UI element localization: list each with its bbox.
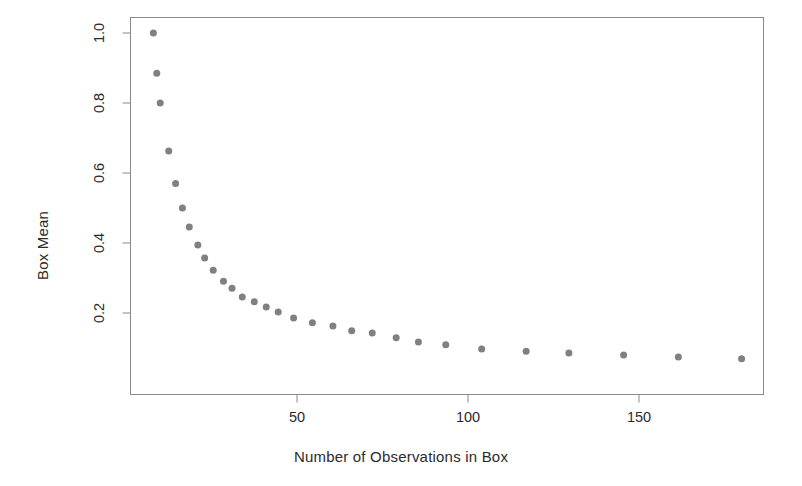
scatter-point bbox=[201, 255, 208, 262]
scatter-point bbox=[675, 354, 682, 361]
scatter-point bbox=[194, 242, 201, 249]
scatter-point bbox=[150, 30, 157, 37]
scatter-point bbox=[393, 334, 400, 341]
scatter-point bbox=[186, 223, 193, 230]
scatter-point bbox=[415, 339, 422, 346]
scatter-point bbox=[179, 205, 186, 212]
scatter-point bbox=[523, 348, 530, 355]
plot-frame bbox=[131, 18, 764, 395]
y-tick-label: 0.2 bbox=[89, 293, 109, 333]
scatter-point bbox=[309, 319, 316, 326]
scatter-point bbox=[329, 322, 336, 329]
y-tick-label: 0.8 bbox=[89, 83, 109, 123]
x-axis-ticks bbox=[297, 395, 639, 403]
scatter-point bbox=[239, 293, 246, 300]
scatter-point bbox=[263, 304, 270, 311]
scatter-point bbox=[165, 147, 172, 154]
scatter-point bbox=[229, 285, 236, 292]
x-axis-title: Number of Observations in Box bbox=[0, 448, 802, 465]
y-tick-label: 0.4 bbox=[89, 223, 109, 263]
scatter-point bbox=[220, 278, 227, 285]
y-tick-label: 0.6 bbox=[89, 153, 109, 193]
scatter-point bbox=[290, 314, 297, 321]
scatter-point bbox=[251, 298, 258, 305]
scatter-point bbox=[157, 100, 164, 107]
y-tick-label: 1.0 bbox=[89, 13, 109, 53]
scatter-point bbox=[172, 180, 179, 187]
x-tick-label: 100 bbox=[448, 409, 488, 425]
scatter-point bbox=[738, 355, 745, 362]
y-axis-title: Box Mean bbox=[34, 211, 51, 280]
data-points bbox=[150, 30, 745, 363]
scatter-point bbox=[153, 70, 160, 77]
scatter-point bbox=[620, 352, 627, 359]
y-axis-ticks bbox=[123, 33, 131, 313]
scatter-plot-figure: Number of Observations in Box Box Mean 5… bbox=[0, 0, 802, 486]
scatter-point bbox=[565, 349, 572, 356]
scatter-point bbox=[348, 327, 355, 334]
x-tick-label: 50 bbox=[277, 409, 317, 425]
scatter-point bbox=[275, 308, 282, 315]
x-tick-label: 150 bbox=[619, 409, 659, 425]
plot-canvas bbox=[0, 0, 802, 486]
scatter-point bbox=[442, 341, 449, 348]
scatter-point bbox=[478, 346, 485, 353]
scatter-point bbox=[210, 267, 217, 274]
scatter-point bbox=[369, 329, 376, 336]
